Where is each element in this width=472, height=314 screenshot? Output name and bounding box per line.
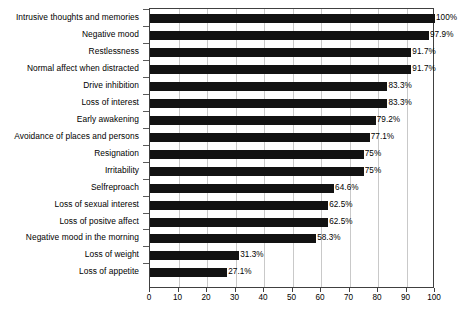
y-axis-tick xyxy=(143,9,149,10)
x-axis-tick-label: 60 xyxy=(305,293,335,303)
bar xyxy=(150,65,411,74)
bar-value-label: 58.3% xyxy=(317,232,340,243)
category-label: Early awakening xyxy=(77,114,139,125)
x-axis-tick xyxy=(434,288,435,292)
bar-value-label: 79.2% xyxy=(377,114,400,125)
bar xyxy=(150,133,370,142)
bar xyxy=(150,14,435,23)
bar-value-label: 100% xyxy=(436,12,457,23)
y-axis-tick xyxy=(143,77,149,78)
y-axis-tick xyxy=(143,229,149,230)
y-axis-tick xyxy=(143,94,149,95)
x-axis-tick xyxy=(292,288,293,292)
y-axis-tick xyxy=(143,43,149,44)
category-label: Selfreproach xyxy=(91,182,139,193)
bar-value-label: 62.5% xyxy=(329,216,352,227)
y-axis-tick xyxy=(143,196,149,197)
category-label: Resignation xyxy=(94,148,139,159)
y-axis-tick xyxy=(143,26,149,27)
category-label: Drive inhibition xyxy=(83,80,139,91)
x-axis-tick-label: 90 xyxy=(391,293,421,303)
bar-value-label: 91.7% xyxy=(412,46,435,57)
category-label: Loss of appetite xyxy=(79,266,139,277)
bar xyxy=(150,201,328,210)
x-axis-tick xyxy=(149,288,150,292)
y-axis-tick xyxy=(143,111,149,112)
x-axis-tick-label: 70 xyxy=(334,293,364,303)
category-label: Negative mood xyxy=(82,29,139,40)
x-axis-tick-label: 50 xyxy=(277,293,307,303)
bar xyxy=(150,234,316,243)
bar xyxy=(150,150,364,159)
x-axis-tick xyxy=(235,288,236,292)
bar-value-label: 75% xyxy=(365,148,382,159)
bar xyxy=(150,268,227,277)
x-axis-tick xyxy=(178,288,179,292)
category-label: Negative mood in the morning xyxy=(26,232,139,243)
x-axis-tick xyxy=(349,288,350,292)
x-axis-tick-label: 80 xyxy=(362,293,392,303)
x-axis-tick-label: 30 xyxy=(220,293,250,303)
y-axis-tick xyxy=(143,246,149,247)
category-label: Loss of positve affect xyxy=(59,216,139,227)
x-axis-tick-label: 100 xyxy=(419,293,449,303)
y-axis-tick xyxy=(143,213,149,214)
category-axis-labels: Intrusive thoughts and memoriesNegative … xyxy=(0,8,144,287)
bar-value-label: 91.7% xyxy=(412,63,435,74)
bar xyxy=(150,99,387,108)
bar-value-label: 83.3% xyxy=(388,80,411,91)
x-axis-tick-label: 20 xyxy=(191,293,221,303)
y-axis-tick xyxy=(143,263,149,264)
bar-value-label: 77.1% xyxy=(371,131,394,142)
plot-area xyxy=(149,8,434,287)
x-axis-tick xyxy=(377,288,378,292)
category-label: Loss of interest xyxy=(81,97,139,108)
category-label: Loss of sexual interest xyxy=(55,199,139,210)
bar-value-label: 31.3% xyxy=(240,249,263,260)
bar xyxy=(150,167,364,176)
y-axis-tick xyxy=(143,60,149,61)
x-axis-tick xyxy=(320,288,321,292)
y-axis-tick xyxy=(143,162,149,163)
bar-value-label: 64.6% xyxy=(335,182,358,193)
x-axis-tick xyxy=(206,288,207,292)
bar-value-label: 62.5% xyxy=(329,199,352,210)
bar xyxy=(150,116,376,125)
y-axis-tick xyxy=(143,145,149,146)
bar xyxy=(150,218,328,227)
horizontal-bar-chart: Intrusive thoughts and memoriesNegative … xyxy=(0,0,472,314)
bar-value-label: 83.3% xyxy=(388,97,411,108)
category-label: Irritability xyxy=(105,165,139,176)
x-axis-tick-label: 40 xyxy=(248,293,278,303)
bar xyxy=(150,82,387,91)
category-label: Intrusive thoughts and memories xyxy=(16,12,139,23)
bar-value-label: 75% xyxy=(365,165,382,176)
category-label: Loss of weight xyxy=(85,249,139,260)
x-axis-tick xyxy=(263,288,264,292)
plot-inner xyxy=(150,9,433,287)
category-label: Avoidance of places and persons xyxy=(14,131,139,142)
x-axis-tick-label: 0 xyxy=(134,293,164,303)
y-axis-tick xyxy=(143,128,149,129)
y-axis-tick xyxy=(143,179,149,180)
category-label: Restlessness xyxy=(89,46,139,57)
x-axis-tick-label: 10 xyxy=(163,293,193,303)
bar xyxy=(150,48,411,57)
bar-value-label: 97.9% xyxy=(430,29,453,40)
category-label: Normal affect when distracted xyxy=(27,63,139,74)
bar xyxy=(150,251,239,260)
bar xyxy=(150,184,334,193)
bar-value-label: 27.1% xyxy=(228,266,251,277)
x-axis-tick xyxy=(406,288,407,292)
bar xyxy=(150,31,429,40)
